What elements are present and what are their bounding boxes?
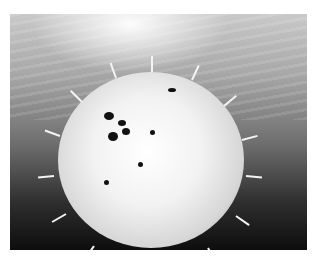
pufferfish-photo <box>10 14 307 250</box>
spot <box>168 88 176 92</box>
spot <box>104 112 114 120</box>
pufferfish <box>58 72 244 248</box>
spot <box>108 132 118 141</box>
spot <box>118 120 126 126</box>
spot <box>104 180 109 185</box>
spot <box>122 128 130 135</box>
spot <box>138 162 143 167</box>
spot <box>150 130 155 135</box>
